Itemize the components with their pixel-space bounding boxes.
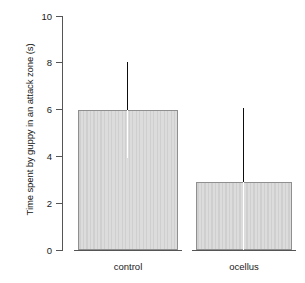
y-axis-tick-6 [56, 109, 63, 110]
error-bar-lower-control [127, 110, 129, 158]
y-axis-label-0: 0 [30, 245, 52, 256]
error-bar-upper-ocellus [243, 108, 244, 183]
y-axis-tick-2 [56, 203, 63, 204]
y-axis-tick-10 [56, 16, 63, 17]
x-axis-category-control: control [114, 261, 143, 272]
x-axis-segment-control [74, 250, 182, 251]
y-axis-label-8: 8 [30, 57, 52, 68]
error-bar-upper-control [127, 62, 128, 111]
y-axis-label-2: 2 [30, 198, 52, 209]
y-axis-tick-0 [56, 250, 63, 251]
y-axis-tick-8 [56, 62, 63, 63]
x-axis-category-ocellus: ocellus [229, 261, 259, 272]
y-axis-title-container: Time spent by guppy in an attack zone (s… [0, 0, 30, 283]
x-axis-segment-ocellus [192, 250, 296, 251]
y-axis-label-4: 4 [30, 151, 52, 162]
bar-chart-figure: Time spent by guppy in an attack zone (s… [0, 0, 305, 283]
y-axis-line [62, 16, 63, 250]
y-axis-tick-labels: 10 8 6 4 2 0 [28, 0, 52, 283]
error-bar-lower-ocellus [243, 182, 245, 250]
y-axis-tick-4 [56, 156, 63, 157]
y-axis-label-10: 10 [30, 11, 52, 22]
y-axis-label-6: 6 [30, 104, 52, 115]
